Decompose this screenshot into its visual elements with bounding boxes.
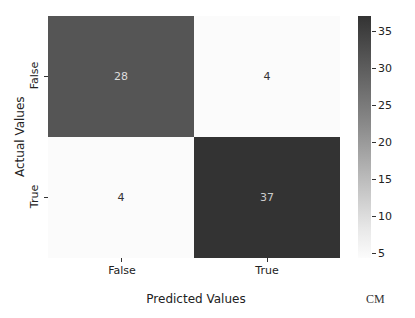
y-tick-true bbox=[44, 197, 48, 198]
colorbar-tick-15 bbox=[372, 179, 376, 180]
y-tick-label-true: True bbox=[28, 177, 41, 217]
colorbar-label-15: 15 bbox=[378, 173, 392, 186]
cell-value: 4 bbox=[118, 191, 125, 204]
x-tick-label-false: False bbox=[108, 264, 136, 277]
cell-value: 4 bbox=[264, 70, 271, 83]
colorbar-tick-20 bbox=[372, 142, 376, 143]
colorbar-label-25: 25 bbox=[378, 99, 392, 112]
colorbar-label-5: 5 bbox=[378, 247, 385, 260]
y-axis-title: Actual Values bbox=[13, 97, 27, 177]
colorbar-label-30: 30 bbox=[378, 62, 392, 75]
y-tick-label-false: False bbox=[28, 56, 41, 96]
colorbar-label-35: 35 bbox=[378, 25, 392, 38]
colorbar-tick-25 bbox=[372, 105, 376, 106]
x-tick-label-true: True bbox=[255, 264, 278, 277]
colorbar-tick-5 bbox=[372, 253, 376, 254]
cell-value: 28 bbox=[114, 70, 128, 83]
heatmap-cell-actual-true-predicted-false: 4 bbox=[48, 137, 194, 258]
x-axis-title: Predicted Values bbox=[146, 292, 245, 306]
heatmap-cell-actual-false-predicted-true: 4 bbox=[194, 16, 340, 137]
heatmap-cell-actual-true-predicted-true: 37 bbox=[194, 137, 340, 258]
x-tick-false bbox=[121, 258, 122, 262]
x-tick-true bbox=[267, 258, 268, 262]
colorbar-label-10: 10 bbox=[378, 210, 392, 223]
cell-value: 37 bbox=[260, 191, 274, 204]
y-tick-false bbox=[44, 76, 48, 77]
colorbar-tick-35 bbox=[372, 31, 376, 32]
figure-caption: CM bbox=[366, 292, 385, 307]
heatmap-cell-actual-false-predicted-false: 28 bbox=[48, 16, 194, 137]
colorbar bbox=[358, 16, 371, 258]
colorbar-tick-30 bbox=[372, 68, 376, 69]
colorbar-label-20: 20 bbox=[378, 136, 392, 149]
colorbar-tick-10 bbox=[372, 216, 376, 217]
